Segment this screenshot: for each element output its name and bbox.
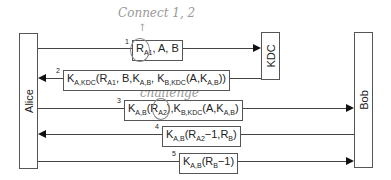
message-4-label: KA,B(RA2−1,RB)	[162, 126, 241, 147]
message-5-number: 5	[172, 150, 176, 157]
bob-lifeline: Bob	[354, 32, 373, 168]
arrow-left-icon	[38, 130, 46, 138]
message-3-number: 3	[117, 97, 121, 104]
kdc-lifeline: KDC	[261, 32, 280, 80]
annotation-circle	[130, 38, 150, 62]
message-2-label: KA,KDC(RA1, B,KA,B, KB,KDC(A,KA,B))	[63, 70, 230, 91]
message-1-number: 1	[125, 38, 129, 45]
message-2-number: 2	[56, 67, 60, 74]
arrow-right-icon	[346, 157, 354, 165]
kdc-label: KDC	[265, 44, 277, 67]
annotation-circle	[152, 98, 170, 120]
message-3-label: KA,B(RA2),KB,KDC(A,KA,B)	[124, 100, 243, 121]
message-5-label: KA,B(RB−1)	[179, 153, 238, 174]
alice-label: Alice	[23, 89, 35, 113]
arrow-right-icon	[253, 44, 261, 52]
annotation-connect: Connect 1, 2	[118, 6, 195, 20]
bob-label: Bob	[358, 90, 370, 110]
alice-lifeline: Alice	[19, 33, 38, 169]
arrow-right-icon	[346, 104, 354, 112]
annotation-arrow-icon: ↑	[138, 22, 146, 33]
arrow-left-icon	[38, 74, 46, 82]
message-4-number: 4	[155, 123, 159, 130]
